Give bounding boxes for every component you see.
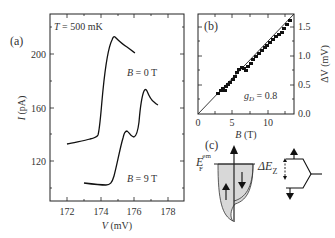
upper-spin-up-arrow-icon xyxy=(290,148,298,155)
gd-annotation: gD = 0.8 xyxy=(244,90,277,103)
lower-spin-down-arrow-icon xyxy=(286,193,294,200)
temperature-annotation: T = 500 mK xyxy=(54,21,103,32)
xtick-178: 178 xyxy=(161,206,176,217)
xtick-176: 176 xyxy=(127,206,142,217)
curve-b0 xyxy=(67,37,135,144)
figure: (a) T = 500 mK B = 0 T B = 9 T 172 174 1… xyxy=(0,0,335,238)
xtick-174: 174 xyxy=(94,206,109,217)
band-shade xyxy=(218,164,253,221)
ytick-160: 160 xyxy=(31,103,46,114)
panel-a-label: (a) xyxy=(10,34,23,48)
fermi-energy-label: EemF xyxy=(195,152,211,173)
energy-axis-arrow-icon xyxy=(230,145,238,154)
gap-down-arrow-icon xyxy=(283,176,287,180)
scatter-points xyxy=(216,19,292,95)
ytick-1.5: 1.5 xyxy=(298,21,311,32)
zeeman-levels xyxy=(286,159,311,188)
xtick-172: 172 xyxy=(60,206,75,217)
panel-a-ytick-labels: 200 160 120 xyxy=(31,49,46,167)
ytick-200: 200 xyxy=(31,49,46,60)
xtick-10: 10 xyxy=(263,117,273,128)
ytick-1.0: 1.0 xyxy=(298,50,311,61)
panel-c: (c) EemF ΔEZ xyxy=(195,138,322,222)
panel-a-xlabel: V (mV) xyxy=(102,220,132,232)
panel-b-label: (b) xyxy=(204,19,218,33)
label-b0: B = 0 T xyxy=(127,67,157,78)
xtick-5: 5 xyxy=(230,117,235,128)
zeeman-splitting-label: ΔEZ xyxy=(257,159,277,176)
panel-a-ylabel: I (pA) xyxy=(16,96,28,122)
panel-b-ytick-labels: 1.5 1.0 0.5 0.0 xyxy=(298,21,311,119)
panel-b-xlabel: B (T) xyxy=(235,129,256,141)
panel-b: (b) gD = 0.8 0 5 10 1.5 1.0 0.5 0.0 B (T… xyxy=(196,14,332,141)
label-b9: B = 9 T xyxy=(127,173,157,184)
xtick-0: 0 xyxy=(196,117,201,128)
panel-b-ylabel: ΔV (mV) xyxy=(319,45,331,83)
ytick-0.5: 0.5 xyxy=(298,79,311,90)
ytick-120: 120 xyxy=(31,156,46,167)
panel-a: (a) T = 500 mK B = 0 T B = 9 T 172 174 1… xyxy=(10,14,184,232)
panel-c-label: (c) xyxy=(205,138,218,152)
panel-a-xtick-labels: 172 174 176 178 xyxy=(60,206,176,217)
ytick-0.0: 0.0 xyxy=(298,108,311,119)
panel-a-frame xyxy=(50,14,184,201)
panel-b-xtick-labels: 0 5 10 xyxy=(196,117,274,128)
